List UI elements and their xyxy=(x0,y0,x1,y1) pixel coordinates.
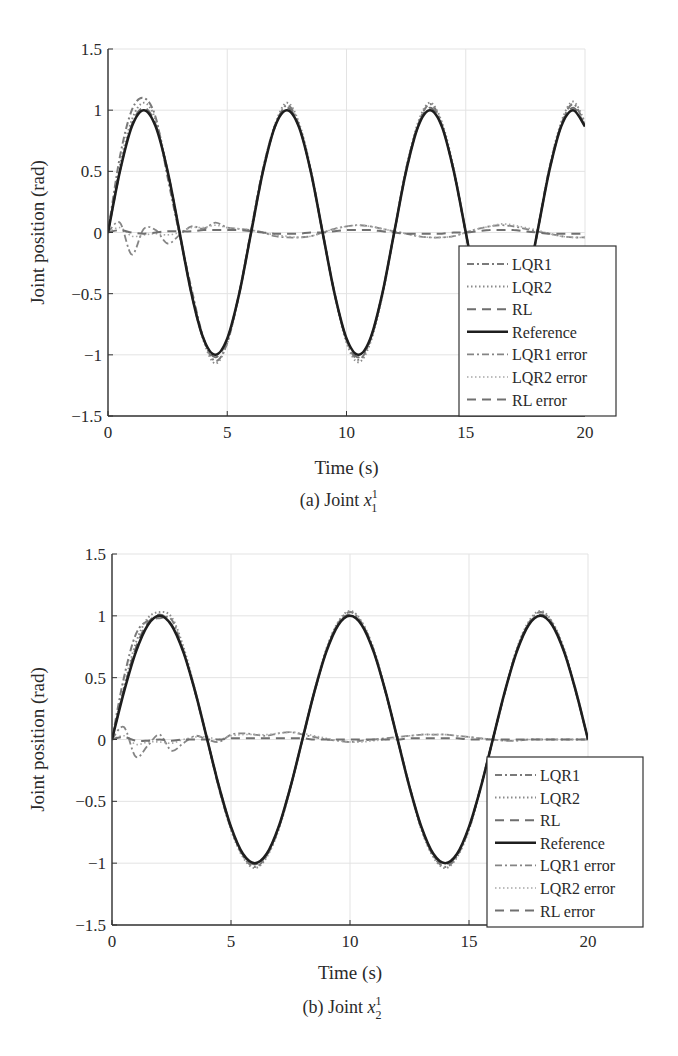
x-tick-label: 10 xyxy=(338,423,355,442)
legend-label: LQR2 xyxy=(540,790,580,807)
y-tick-label: −1.5 xyxy=(75,916,106,935)
x-tick-label: 15 xyxy=(461,932,478,951)
y-tick-label: 1.5 xyxy=(81,40,102,59)
y-tick-label: 0 xyxy=(98,731,107,750)
y-tick-label: −0.5 xyxy=(71,285,102,304)
x-tick-label: 20 xyxy=(580,932,597,951)
x-tick-label: 0 xyxy=(104,423,113,442)
legend-label: RL xyxy=(512,301,532,318)
figure-caption: (a) Joint x11 xyxy=(300,487,378,515)
y-tick-label: 1 xyxy=(98,607,107,626)
y-tick-label: 1.5 xyxy=(85,545,106,564)
y-tick-label: 1 xyxy=(94,101,103,120)
y-tick-label: 0.5 xyxy=(81,162,102,181)
x-tick-label: 0 xyxy=(108,932,117,951)
y-tick-label: 0.5 xyxy=(85,669,106,688)
x-tick-label: 10 xyxy=(342,932,359,951)
legend: LQR1LQR2RLReferenceLQR1 errorLQR2 errorR… xyxy=(459,246,616,416)
legend-label: LQR1 xyxy=(540,767,580,784)
figure-b-joint-x2: 05101520−1.5−1−0.500.511.5Time (s)Joint … xyxy=(0,528,678,1056)
x-tick-label: 5 xyxy=(223,423,232,442)
y-tick-label: −1 xyxy=(88,854,106,873)
line-chart-joint-x1: 05101520−1.5−1−0.500.511.5Time (s)Joint … xyxy=(0,0,678,528)
figure-caption: (b) Joint x12 xyxy=(303,994,382,1022)
y-axis-title: Joint position (rad) xyxy=(27,160,49,305)
x-tick-label: 5 xyxy=(227,932,236,951)
y-tick-label: −1 xyxy=(84,346,102,365)
legend-label: LQR1 error xyxy=(540,857,616,874)
legend-label: LQR2 xyxy=(512,279,552,296)
x-tick-label: 20 xyxy=(577,423,594,442)
legend-label: LQR2 error xyxy=(512,369,588,386)
legend-label: RL error xyxy=(540,903,596,920)
x-tick-label: 15 xyxy=(457,423,474,442)
legend-label: LQR1 xyxy=(512,256,552,273)
x-axis-title: Time (s) xyxy=(318,962,382,984)
legend-label: LQR2 error xyxy=(540,880,616,897)
legend: LQR1LQR2RLReferenceLQR1 errorLQR2 errorR… xyxy=(487,757,643,927)
y-tick-label: −0.5 xyxy=(75,792,106,811)
line-chart-joint-x2: 05101520−1.5−1−0.500.511.5Time (s)Joint … xyxy=(0,528,678,1056)
legend-label: Reference xyxy=(512,324,577,341)
figure-a-joint-x1: 05101520−1.5−1−0.500.511.5Time (s)Joint … xyxy=(0,0,678,528)
y-tick-label: −1.5 xyxy=(71,407,102,426)
y-tick-label: 0 xyxy=(94,224,103,243)
legend-label: RL xyxy=(540,812,560,829)
legend-label: Reference xyxy=(540,835,605,852)
y-axis-title: Joint position (rad) xyxy=(27,667,49,812)
legend-label: LQR1 error xyxy=(512,346,588,363)
x-axis-title: Time (s) xyxy=(314,457,378,479)
legend-label: RL error xyxy=(512,392,568,409)
